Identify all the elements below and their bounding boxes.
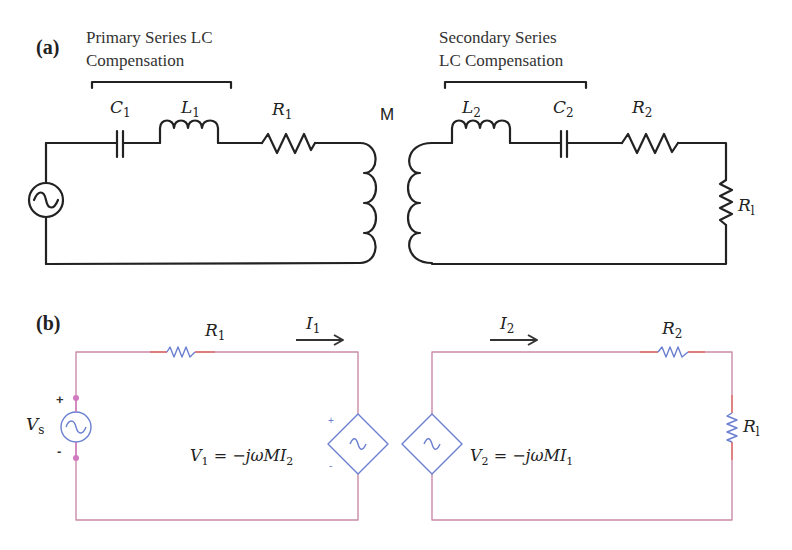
primary-caption-line2: Compensation (86, 50, 184, 72)
secondary-caption-line2: LC Compensation (439, 50, 563, 72)
label-r2: R2 (632, 97, 652, 120)
label-l2: L2 (462, 97, 481, 120)
capacitor-c2-icon (561, 131, 567, 157)
label-i1: I1 (306, 313, 320, 336)
label-l1: L1 (181, 97, 200, 120)
resistor-r2-b-icon (658, 347, 688, 357)
label-i2: I2 (500, 313, 514, 336)
equation-v1: V1 = −jωMI2 (190, 446, 293, 468)
secondary-caption-line1: Secondary Series (439, 27, 557, 49)
panel-b-tag: (b) (36, 312, 60, 335)
panel-a-tag: (a) (36, 36, 59, 59)
v1-plus-sign: + (328, 415, 334, 426)
resistor-r1-b-icon (167, 347, 195, 357)
loop1-wire (76, 352, 358, 520)
label-r2-b: R2 (662, 318, 682, 341)
primary-coil-icon (360, 143, 376, 263)
primary-compensation-bracket (92, 82, 231, 88)
label-vs: Vs (26, 414, 44, 437)
capacitor-c1-icon (117, 131, 123, 157)
resistor-rl-b-icon (727, 413, 737, 442)
secondary-coil-icon (408, 143, 432, 263)
circuit-diagram (0, 0, 792, 550)
loop2-wire (432, 352, 732, 520)
current-arrow-i1-icon (296, 335, 343, 345)
vs-minus-sign: - (57, 444, 61, 459)
ac-source-wave (34, 193, 58, 208)
label-r1-b: R1 (205, 320, 225, 343)
inductor-l1-icon (160, 121, 218, 144)
label-c2: C2 (553, 97, 574, 120)
secondary-compensation-bracket (445, 82, 586, 88)
vs-plus-sign: + (56, 392, 64, 407)
label-c1: C1 (110, 97, 131, 120)
loop2-accent-wire (640, 352, 732, 460)
label-r1: R1 (272, 99, 292, 122)
primary-caption-line1: Primary Series LC (86, 27, 213, 49)
panel-b-circuit (61, 335, 737, 520)
primary-bottom-wire (46, 263, 360, 264)
resistor-r2-icon (622, 134, 678, 153)
equation-v2: V2 = −jωMI1 (470, 446, 573, 468)
label-rl: Rl (738, 195, 755, 218)
label-rl-b: Rl (743, 416, 760, 439)
v1-minus-sign: - (329, 460, 332, 471)
resistor-r1-icon (262, 134, 315, 153)
label-mutual-m: M (380, 105, 394, 125)
current-arrow-i2-icon (490, 335, 537, 345)
resistor-rl-icon (720, 180, 732, 225)
inductor-l2-icon (452, 121, 510, 144)
